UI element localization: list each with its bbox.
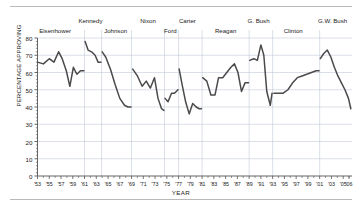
president-label-g-w-bush: G.W. Bush — [318, 17, 347, 24]
x-axis-tick-label: '67 — [116, 181, 123, 187]
approval-line-johnson — [102, 52, 131, 107]
y-axis-tick-label: 30 — [21, 121, 33, 128]
x-axis-tick-label: '73 — [152, 181, 159, 187]
x-axis-tick-label: '89 — [246, 181, 253, 187]
x-axis-title: YEAR — [0, 189, 362, 196]
y-axis-tick-label: 60 — [21, 69, 33, 76]
president-label-ford: Ford — [164, 27, 177, 34]
x-axis-tick-label: '83 — [210, 181, 217, 187]
x-axis-tick-label: '59 — [69, 181, 76, 187]
y-axis-tick-label: 80 — [21, 35, 33, 42]
y-axis-tick-label: 40 — [21, 104, 33, 111]
y-axis-tick-label: 70 — [21, 52, 33, 59]
y-axis-tick-label: 50 — [21, 86, 33, 93]
x-axis-tick-label: '99 — [304, 181, 311, 187]
x-axis-tick-label: '77 — [175, 181, 182, 187]
x-axis-tick-label: '53 — [34, 181, 41, 187]
x-axis-tick-label: '91 — [257, 181, 264, 187]
x-axis-tick-label: '97 — [293, 181, 300, 187]
approval-line-ford — [165, 90, 178, 102]
x-axis-tick-label: '01 — [316, 181, 323, 187]
president-label-eisenhower: Eisenhower — [39, 27, 71, 34]
x-axis-tick-label: '81 — [199, 181, 206, 187]
approval-rating-figure: PERCENTAGE APPROVING YEAR 01020304050607… — [0, 0, 362, 209]
president-label-johnson: Johnson — [104, 27, 127, 34]
president-label-g-bush: G. Bush — [248, 17, 270, 24]
approval-line-g-bush — [250, 45, 272, 105]
approval-line-reagan — [203, 64, 249, 95]
x-axis-tick-label: '55 — [46, 181, 53, 187]
x-axis-tick-label: '95 — [281, 181, 288, 187]
x-axis-tick-label: '85 — [222, 181, 229, 187]
president-label-carter: Carter — [179, 17, 196, 24]
x-axis-tick-label: '75 — [163, 181, 170, 187]
x-axis-tick-label: '61 — [81, 181, 88, 187]
y-axis-tick-label: 10 — [21, 155, 33, 162]
x-axis-tick-label: '87 — [234, 181, 241, 187]
president-label-clinton: Clinton — [284, 27, 303, 34]
x-axis-tick-label: '65 — [105, 181, 112, 187]
x-axis-tick-label: '71 — [140, 181, 147, 187]
approval-line-g-w-bush — [320, 50, 351, 109]
president-label-kennedy: Kennedy — [78, 17, 102, 24]
x-axis-tick-label: '93 — [269, 181, 276, 187]
x-axis-tick-label: '63 — [93, 181, 100, 187]
approval-line-eisenhower — [38, 52, 84, 87]
x-axis-tick-label: '57 — [58, 181, 65, 187]
president-label-reagan: Reagan — [215, 27, 236, 34]
president-label-nixon: Nixon — [140, 17, 156, 24]
approval-line-kennedy — [85, 41, 101, 62]
y-axis-tick-label: 0 — [21, 173, 33, 180]
y-axis-tick-label: 20 — [21, 138, 33, 145]
x-axis-tick-label: '03 — [328, 181, 335, 187]
x-axis-tick-label: '06 — [346, 181, 353, 187]
x-axis-tick-label: '79 — [187, 181, 194, 187]
x-axis-tick-label: '69 — [128, 181, 135, 187]
